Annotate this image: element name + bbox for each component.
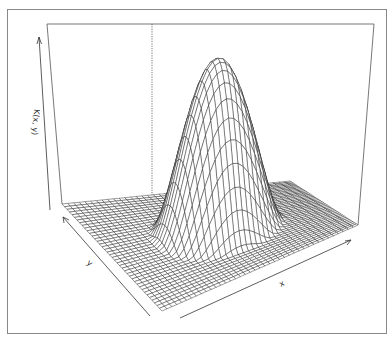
surface-plot: K(x, y) y x [0,0,392,342]
z-axis-label: K(x, y) [30,109,41,136]
x-axis-label: x [278,279,286,289]
surface-mesh [62,58,358,311]
y-axis-label: y [85,258,95,268]
